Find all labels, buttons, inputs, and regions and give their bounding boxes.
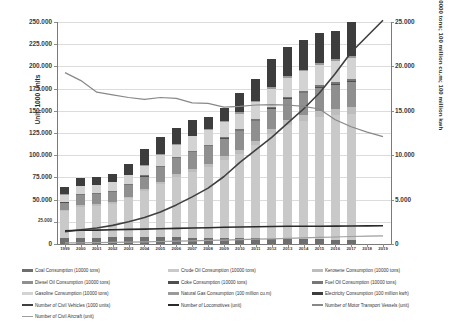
legend-item[interactable]: Number of Civil Aircraft (unit) bbox=[22, 314, 94, 319]
y-tick-label-left: 50.000 bbox=[4, 196, 52, 203]
legend-item[interactable]: Number of Locomotives (unit) bbox=[168, 303, 241, 308]
legend-item[interactable]: Diesel Oil Consumption (10000 tons) bbox=[22, 280, 110, 285]
legend-item[interactable]: Natural Gas Consumption (100 million cu.… bbox=[168, 291, 271, 296]
chart-legend: Coal Consumption (10000 tons)Crude Oil C… bbox=[0, 268, 457, 324]
legend-label: Number of Civil Vehicles (1000 units) bbox=[35, 303, 110, 308]
legend-item[interactable]: Coal Consumption (10000 tons) bbox=[22, 268, 100, 273]
y-tick-label-right: 25.000 bbox=[395, 18, 435, 25]
legend-swatch bbox=[22, 316, 33, 317]
x-tick-mark bbox=[129, 244, 130, 247]
x-tick-mark bbox=[240, 244, 241, 247]
y-tick-label-left: 175.000 bbox=[4, 85, 52, 92]
y-tick-label-left: 0 bbox=[4, 240, 52, 247]
y-tick-label-right: 15.000 bbox=[395, 107, 435, 114]
legend-swatch bbox=[312, 281, 323, 284]
legend-swatch bbox=[168, 269, 179, 272]
x-tick-mark bbox=[176, 244, 177, 247]
legend-label: Number of Motor Transport Vessels (unit) bbox=[325, 303, 409, 308]
legend-label: Coke Consumption (10000 tons) bbox=[181, 280, 247, 285]
legend-item[interactable]: Kerosene Consumption (10000 tons) bbox=[312, 268, 400, 273]
y-tick-label-left: 25.000 bbox=[4, 218, 52, 223]
legend-item[interactable]: Coke Consumption (10000 tons) bbox=[168, 280, 247, 285]
y-tick-label-left: 150.000 bbox=[4, 107, 52, 114]
y-tick-label-right: 20.000 bbox=[395, 62, 435, 69]
y-tick-label-right: 0 bbox=[395, 240, 435, 247]
x-tick-mark bbox=[383, 244, 384, 247]
x-tick-mark bbox=[288, 244, 289, 247]
legend-item[interactable]: Electricity Consumption (100 million kwh… bbox=[312, 291, 409, 296]
x-tick-mark bbox=[144, 244, 145, 247]
y-tick-label-left: 125.000 bbox=[4, 129, 52, 136]
y-tick-label-left: 250.000 bbox=[4, 18, 52, 25]
line-series-group bbox=[57, 22, 391, 244]
legend-label: Diesel Oil Consumption (10000 tons) bbox=[35, 280, 110, 285]
line-series bbox=[65, 20, 383, 231]
x-tick-mark bbox=[256, 244, 257, 247]
legend-swatch bbox=[22, 292, 33, 295]
legend-swatch bbox=[312, 304, 323, 305]
legend-swatch bbox=[22, 304, 33, 306]
y-tick-mark-right bbox=[391, 244, 394, 245]
y-axis-label-right: 10000 tons; 100 million cu.m; 100 millio… bbox=[438, 0, 445, 139]
x-tick-mark bbox=[208, 244, 209, 247]
legend-swatch bbox=[22, 269, 33, 272]
x-tick-mark bbox=[224, 244, 225, 247]
y-tick-label-left: 100.000 bbox=[4, 151, 52, 158]
y-tick-label-right: 5.000 bbox=[395, 196, 435, 203]
legend-swatch bbox=[22, 281, 33, 284]
legend-label: Kerosene Consumption (10000 tons) bbox=[325, 268, 400, 273]
x-tick-mark bbox=[335, 244, 336, 247]
legend-item[interactable]: Number of Civil Vehicles (1000 units) bbox=[22, 303, 110, 308]
legend-swatch bbox=[168, 292, 179, 295]
legend-label: Natural Gas Consumption (100 million cu.… bbox=[181, 291, 271, 296]
x-tick-mark bbox=[272, 244, 273, 247]
x-tick-mark bbox=[351, 244, 352, 247]
line-series bbox=[65, 226, 383, 231]
x-tick-mark bbox=[304, 244, 305, 247]
y-tick-label-left: 75.000 bbox=[4, 173, 52, 180]
plot-area bbox=[57, 22, 391, 244]
legend-swatch bbox=[312, 269, 323, 272]
legend-label: Number of Locomotives (unit) bbox=[181, 303, 241, 308]
x-tick-mark bbox=[367, 244, 368, 247]
x-tick-mark bbox=[192, 244, 193, 247]
x-tick-mark bbox=[319, 244, 320, 247]
legend-item[interactable]: Number of Motor Transport Vessels (unit) bbox=[312, 303, 409, 308]
legend-item[interactable]: Fuel Oil Consumption (10000 tons) bbox=[312, 280, 396, 285]
legend-label: Gasoline Consumption (10000 tons) bbox=[35, 291, 109, 296]
x-tick-mark bbox=[113, 244, 114, 247]
x-tick-mark bbox=[160, 244, 161, 247]
legend-label: Coal Consumption (10000 tons) bbox=[35, 268, 100, 273]
legend-label: Crude Oil Consumption (10000 tons) bbox=[181, 268, 256, 273]
y-axis-right-line bbox=[391, 22, 392, 244]
line-series bbox=[65, 73, 383, 137]
legend-item[interactable]: Gasoline Consumption (10000 tons) bbox=[22, 291, 109, 296]
legend-swatch bbox=[168, 281, 179, 284]
legend-label: Fuel Oil Consumption (10000 tons) bbox=[325, 280, 396, 285]
legend-swatch bbox=[168, 304, 179, 306]
y-tick-label-left: 225.000 bbox=[4, 40, 52, 47]
line-series bbox=[65, 236, 383, 243]
legend-label: Electricity Consumption (100 million kwh… bbox=[325, 291, 409, 296]
x-tick-mark bbox=[97, 244, 98, 247]
chart-root: Unit; 1000 Units 10000 tons; 100 million… bbox=[0, 0, 457, 334]
x-tick-mark bbox=[81, 244, 82, 247]
legend-swatch bbox=[312, 292, 323, 295]
y-axis-left-line bbox=[57, 22, 58, 244]
legend-item[interactable]: Crude Oil Consumption (10000 tons) bbox=[168, 268, 256, 273]
legend-label: Number of Civil Aircraft (unit) bbox=[35, 314, 94, 319]
y-tick-label-left: 200.000 bbox=[4, 62, 52, 69]
y-tick-label-right: 10.000 bbox=[395, 151, 435, 158]
x-tick-mark bbox=[65, 244, 66, 247]
y-axis-label-left: Unit; 1000 Units bbox=[34, 45, 41, 155]
